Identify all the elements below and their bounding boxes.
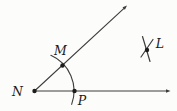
construction-diagram: NMPL (0, 0, 177, 111)
point-M-label: M (53, 43, 68, 58)
point-M-dot (60, 63, 64, 67)
point-P-dot (72, 89, 76, 93)
figure-background (0, 0, 177, 111)
point-L-dot (145, 48, 149, 52)
point-P-label: P (77, 93, 87, 108)
point-L-label: L (155, 36, 164, 51)
geometry-figure: NMPL (0, 0, 177, 111)
point-N-label: N (11, 84, 24, 99)
point-N-dot (32, 89, 36, 93)
